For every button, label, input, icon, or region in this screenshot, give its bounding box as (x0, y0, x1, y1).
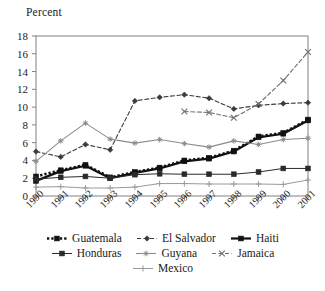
legend-item-label: Guatemala (72, 233, 122, 245)
legend-item-honduras[interactable]: Honduras (51, 248, 122, 260)
legend-item-haiti[interactable]: Haiti (230, 233, 279, 245)
data-series-group (33, 49, 311, 191)
legend-item-guatemala[interactable]: Guatemala (46, 233, 122, 245)
y-tick-label: 6 (8, 138, 28, 149)
chart-legend: GuatemalaEl SalvadorHaitiHondurasGuyanaJ… (0, 231, 325, 276)
y-tick-label: 2 (8, 173, 28, 184)
legend-item-label: El Salvador (162, 233, 216, 245)
chart-figure: Percent 024681012141618 1990199119921993… (0, 0, 325, 291)
legend-marker-guatemala-icon (46, 233, 68, 244)
legend-item-el-salvador[interactable]: El Salvador (136, 233, 216, 245)
legend-row: HondurasGuyanaJamaica (0, 246, 325, 261)
series-guyana (33, 120, 311, 164)
legend-marker-honduras-icon (51, 248, 73, 259)
plot-frame (36, 36, 308, 196)
legend-item-label: Mexico (158, 263, 193, 275)
legend-item-label: Haiti (256, 233, 279, 245)
series-el-salvador (33, 92, 310, 160)
y-tick-label: 8 (8, 120, 28, 131)
legend-item-label: Guyana (161, 248, 197, 260)
legend-item-label: Jamaica (237, 248, 274, 260)
y-tick-label: 12 (8, 84, 28, 95)
legend-item-mexico[interactable]: Mexico (132, 263, 193, 275)
legend-item-label: Honduras (77, 248, 122, 260)
legend-row: Mexico (0, 261, 325, 276)
legend-marker-jamaica-icon (211, 248, 233, 259)
y-tick-label: 4 (8, 155, 28, 166)
axis-ticks (32, 36, 308, 200)
legend-marker-guyana-icon (135, 248, 157, 259)
series-jamaica (181, 49, 310, 121)
series-mexico (33, 177, 311, 191)
legend-marker-haiti-icon (230, 233, 252, 244)
y-tick-label: 18 (8, 31, 28, 42)
legend-marker-el-salvador-icon (136, 233, 158, 244)
y-tick-label: 10 (8, 102, 28, 113)
y-tick-label: 16 (8, 49, 28, 60)
legend-row: GuatemalaEl SalvadorHaiti (0, 231, 325, 246)
legend-marker-mexico-icon (132, 263, 154, 274)
legend-item-jamaica[interactable]: Jamaica (211, 248, 274, 260)
y-tick-label: 14 (8, 67, 28, 78)
legend-item-guyana[interactable]: Guyana (135, 248, 197, 260)
